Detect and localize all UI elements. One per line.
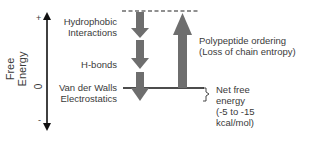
- label-energy: energy: [216, 95, 245, 106]
- label-electrostatics: Electrostatics: [40, 93, 117, 104]
- label-polypeptide-ordering: Polypeptide ordering: [199, 35, 286, 46]
- net-energy-bracket: [203, 88, 209, 101]
- up-arrow-polypeptide-ordering: [173, 13, 192, 88]
- down-arrow-vdw-electrostatics: [131, 72, 149, 101]
- label-net-free: Net free: [216, 84, 250, 95]
- y-axis-tick-minus: -: [38, 115, 41, 125]
- label-van-der-walls: Van der Walls: [40, 82, 117, 93]
- label-hydrophobic: Hydrophobic: [40, 16, 117, 27]
- down-arrow-h-bonds: [131, 40, 149, 69]
- free-energy-diagram: Free Energy + 0 - Hydrophobic Interactio…: [0, 0, 315, 143]
- label-energy-range: (-5 to -15: [216, 106, 255, 117]
- down-arrow-hydrophobic: [131, 12, 149, 38]
- label-energy-unit: kcal/mol): [216, 117, 254, 128]
- y-axis-title: Free Energy: [4, 39, 28, 99]
- label-h-bonds: H-bonds: [40, 59, 117, 70]
- label-loss-of-chain-entropy: (Loss of chain entropy): [199, 46, 296, 57]
- label-interactions: Interactions: [40, 27, 117, 38]
